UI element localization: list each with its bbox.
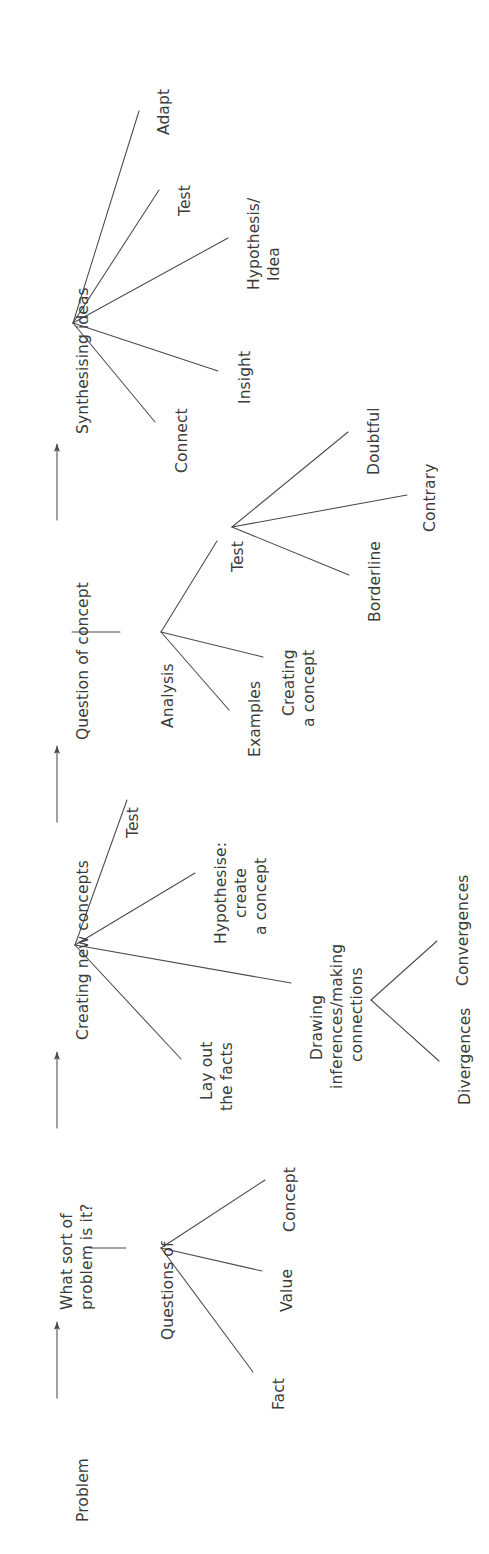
leaf-adapt[interactable]: Adapt [155,89,175,135]
leaf-examples[interactable]: Examples [246,681,266,757]
leaf-test-creating[interactable]: Test [124,807,144,838]
leaf-concept[interactable]: Concept [281,1167,301,1232]
node-what-sort-line1[interactable]: What sort of [58,1213,78,1310]
node-question-of-concept[interactable]: Question of concept [74,582,94,740]
edge-test-doubtful [232,432,348,527]
leaf-contrary[interactable]: Contrary [421,464,441,532]
leaf-lay-out-line1[interactable]: Lay out [198,1042,218,1100]
leaf-value[interactable]: Value [278,1269,298,1312]
leaf-creating-a-concept-line2[interactable]: a concept [300,650,320,727]
leaf-test-synth[interactable]: Test [176,185,196,216]
node-what-sort-line2[interactable]: problem is it? [78,1204,98,1310]
hub-questions-of[interactable]: Questions of [159,1242,179,1340]
edge-test-borderline [232,527,349,575]
edge-analysis-creating-a-concept [161,632,263,657]
edge-synth-insight [73,323,218,371]
node-creating-new-concepts[interactable]: Creating new concepts [74,860,94,1040]
leaf-hypothesise-line1[interactable]: Hypothesise: [212,842,232,944]
edge-synth-hypothesis [73,238,228,323]
leaf-hypothesise-line3[interactable]: a concept [252,858,272,935]
node-problem[interactable]: Problem [74,1458,94,1522]
leaf-drawing-line2[interactable]: inferences/making [328,944,348,1089]
leaf-drawing-line1[interactable]: Drawing [308,995,328,1060]
leaf-fact[interactable]: Fact [270,1378,290,1410]
edge-questions-of-concept [161,1180,265,1248]
node-synthesising-ideas[interactable]: Synthesising ideas [74,287,94,434]
leaf-hypothesis-line1[interactable]: Hypothesis/ [245,198,265,290]
leaf-convergences[interactable]: Convergences [454,875,474,986]
leaf-borderline[interactable]: Borderline [366,541,386,622]
leaf-insight[interactable]: Insight [236,351,256,404]
edge-drawing-divergences [371,1000,439,1061]
leaf-hypothesise-line2[interactable]: create [232,868,252,918]
leaf-hypothesis-line2[interactable]: Idea [265,247,285,281]
leaf-lay-out-line2[interactable]: the facts [218,1042,238,1111]
leaf-drawing-line3[interactable]: connections [348,967,368,1062]
hub-test-of-concept[interactable]: Test [229,541,249,572]
diagram-canvas: Problem What sort of problem is it? Crea… [0,0,489,1554]
leaf-doubtful[interactable]: Doubtful [365,407,385,475]
edge-test-contrary [232,495,407,527]
hub-analysis[interactable]: Analysis [159,663,179,728]
edge-drawing-convergences [371,941,437,1000]
edge-creating-drawing [75,945,291,983]
leaf-creating-a-concept-line1[interactable]: Creating [280,649,300,716]
leaf-divergences[interactable]: Divergences [456,1008,476,1105]
edge-analysis-test [161,541,217,632]
leaf-connect[interactable]: Connect [173,408,193,473]
